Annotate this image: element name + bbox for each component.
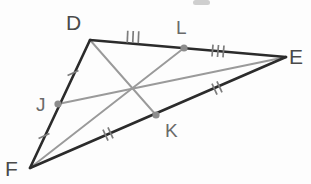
midpoint-label-K: K xyxy=(165,120,178,141)
ticks-DL-stroke xyxy=(138,31,139,43)
geometry-figure: DEFJKL xyxy=(0,0,311,184)
median-EJ xyxy=(58,57,286,104)
figure-canvas: DEFJKL xyxy=(0,0,311,184)
ticks-LE-stroke xyxy=(212,45,213,57)
midpoint-label-L: L xyxy=(176,17,187,38)
midpoint-label-J: J xyxy=(36,94,46,115)
vertex-label-D: D xyxy=(66,11,81,34)
median-FL xyxy=(30,48,184,168)
ticks-LE-stroke xyxy=(223,45,224,57)
ticks-DL-stroke xyxy=(127,31,128,43)
ticks-LE-stroke xyxy=(217,45,218,57)
ticks-DL-stroke xyxy=(133,31,134,43)
vertex-label-E: E xyxy=(289,45,303,68)
midpoint-dot-J xyxy=(54,100,61,107)
side-DE xyxy=(90,40,286,57)
top-edge-crop-artifact xyxy=(193,0,210,5)
ticks-DL xyxy=(127,31,139,43)
midpoint-dot-L xyxy=(180,44,187,51)
vertex-label-F: F xyxy=(5,157,18,180)
midpoint-dot-K xyxy=(152,111,159,118)
